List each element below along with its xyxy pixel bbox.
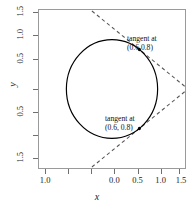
y-tick-label: 1.0 <box>16 24 25 46</box>
x-tick-mark <box>161 169 162 174</box>
upper-annotation-line2: (0.6,0.8) <box>127 44 157 53</box>
y-tick-mark <box>33 59 38 60</box>
y-axis-title: y <box>7 65 18 105</box>
y-tick-label: 1.5 <box>16 1 25 23</box>
plot-canvas <box>39 10 185 168</box>
y-tick-mark <box>33 135 38 136</box>
tangent-point-lower <box>138 127 141 130</box>
y-tick-mark <box>33 112 38 113</box>
tangent-line-lower <box>87 85 185 168</box>
x-tick-mark <box>68 169 69 174</box>
x-axis-title: x <box>0 191 194 202</box>
x-tick-label: 0.0 <box>102 176 126 185</box>
lower-annotation-line2: (0.6, 0.8) <box>105 124 135 133</box>
y-tick-mark <box>33 35 38 36</box>
x-tick-mark <box>179 169 180 174</box>
x-tick-mark <box>45 169 46 174</box>
upper-tangent-annotation: tangent at (0.6,0.8) <box>127 35 157 53</box>
plot-panel: tangent at (0.6,0.8) tangent at (0.6, 0.… <box>38 9 186 169</box>
y-tick-mark <box>33 89 38 90</box>
x-tick-label: 0.5 <box>126 176 150 185</box>
x-tick-label: 1.5 <box>169 176 193 185</box>
lower-tangent-annotation: tangent at (0.6, 0.8) <box>105 115 135 133</box>
x-tick-mark <box>114 169 115 174</box>
x-tick-mark <box>91 169 92 174</box>
y-tick-label: 1.5 <box>16 146 25 168</box>
x-tick-label: 1.0 <box>33 176 57 185</box>
x-tick-mark <box>138 169 139 174</box>
y-tick-mark <box>33 158 38 159</box>
y-tick-mark <box>33 12 38 13</box>
figure-root: tangent at (0.6,0.8) tangent at (0.6, 0.… <box>0 0 194 215</box>
